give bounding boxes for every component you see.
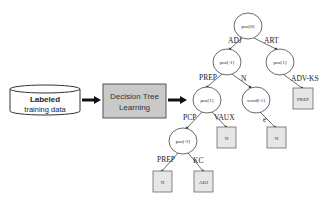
edge-label-kc: KC [193,156,203,165]
edge-label-vaux: VAUX [214,113,235,122]
arrow-to-learning [82,96,101,104]
edge-label-prep: PREP [199,73,217,82]
tree-leaf-prep: PREP [293,88,313,109]
svg-text:PREP: PREP [297,97,309,102]
edge-label-prep-2: PREP [157,155,175,164]
tree-leaf-n-e: N [267,127,286,148]
svg-text:pos[1]: pos[1] [201,98,214,103]
tree-node-right: pos[1] [266,49,294,75]
svg-text:word[-1]: word[-1] [247,98,265,103]
tree-leaf-adj: ADJ [194,171,213,192]
tree-leaf-n-vaux: N [217,127,236,148]
svg-text:pos[-2]: pos[-2] [176,139,191,144]
edge-label-art: ART [264,36,279,45]
edge-label-pcp: PCP [183,113,196,122]
edge-label-adj: ADJ [228,36,242,45]
diagram: Labeled training data Decision Tree Lear… [0,0,327,202]
training-data-cylinder: Labeled training data [10,85,80,115]
arrow-to-tree [168,96,187,104]
svg-text:N: N [275,136,279,141]
tree-node-left-left: pos[1] [193,87,221,113]
svg-text:ADJ: ADJ [199,180,208,185]
edge-label-n: N [241,74,247,83]
svg-text:pos[1]: pos[1] [274,60,287,65]
input-label-line2: training data [24,105,66,114]
tree-node-root: pos[0] [234,13,262,39]
svg-text:N: N [225,136,229,141]
process-label-line1: Decision Tree [110,92,159,101]
edge-label-e: e [263,115,267,124]
svg-text:pos[0]: pos[0] [242,24,255,29]
svg-text:N: N [161,180,165,185]
tree-leaf-n-prep: N [153,171,172,192]
edge-label-adv-ks: ADV-KS [291,74,319,83]
input-label-line1: Labeled [30,95,60,104]
tree-node-left-right: word[-1] [242,87,270,113]
svg-text:pos[-1]: pos[-1] [220,60,235,65]
tree-node-left: pos[-1] [213,49,241,75]
tree-node-left-left-left: pos[-2] [169,128,197,154]
process-label-line2: Learning [119,103,150,112]
decision-tree-learning-box: Decision Tree Learning [103,84,166,118]
